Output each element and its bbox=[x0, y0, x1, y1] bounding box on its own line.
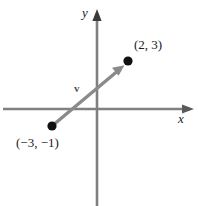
y-axis-label: y bbox=[82, 6, 88, 19]
point-label-head: (2, 3) bbox=[134, 38, 162, 51]
diagram-canvas bbox=[0, 0, 198, 206]
point-marker-tail bbox=[47, 121, 56, 130]
point-marker-head bbox=[123, 56, 132, 65]
point-label-tail: (−3, −1) bbox=[16, 136, 59, 149]
x-axis-label: x bbox=[178, 112, 184, 125]
y-axis-arrowhead bbox=[92, 9, 101, 21]
vector-v-shaft bbox=[52, 69, 120, 126]
vector-diagram: y x (2, 3) (−3, −1) v bbox=[0, 0, 198, 206]
vector-name-label: v bbox=[74, 83, 80, 94]
